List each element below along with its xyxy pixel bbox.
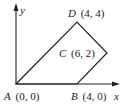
coordinate-diagram: y x A (0, 0) B (4, 0) C (6, 2) D (4, 4) (0, 0, 129, 106)
svg-text:B (4, 0): B (4, 0) (71, 90, 107, 103)
point-b-name: B (71, 90, 78, 102)
y-axis: y (14, 3, 26, 84)
point-a-name: A (3, 90, 11, 102)
point-c-label: C (6, 2) (59, 47, 95, 60)
point-d-name: D (67, 7, 76, 19)
svg-text:A (0, 0): A (0, 0) (3, 90, 40, 103)
point-a-coords: (0, 0) (15, 90, 39, 103)
svg-text:D (4, 4): D (4, 4) (67, 7, 105, 20)
y-axis-arrow-icon (14, 3, 19, 11)
point-d-coords: (4, 4) (81, 7, 105, 20)
point-a-label: A (0, 0) (3, 90, 40, 103)
point-c-coords: (6, 2) (71, 47, 95, 60)
point-d-label: D (4, 4) (67, 7, 105, 20)
point-b-label: B (4, 0) (71, 90, 107, 103)
x-axis-label: x (113, 90, 119, 102)
y-axis-label: y (19, 4, 25, 16)
point-b-coords: (4, 0) (82, 90, 106, 103)
svg-text:C (6, 2): C (6, 2) (59, 47, 95, 60)
point-c-name: C (59, 47, 67, 59)
x-axis-arrow-icon (112, 82, 120, 87)
